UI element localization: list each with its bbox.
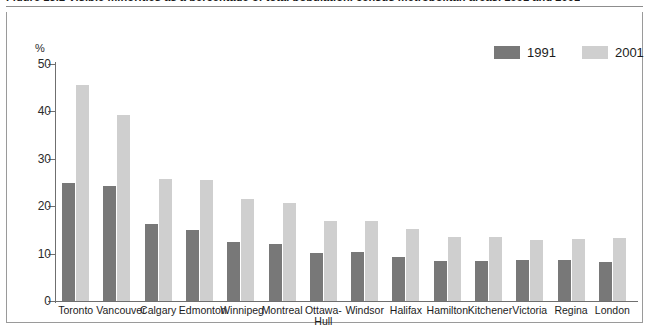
bar: [530, 240, 543, 301]
x-axis-label: Toronto: [55, 305, 96, 316]
bar: [392, 257, 405, 301]
bar: [516, 260, 529, 301]
bar: [613, 238, 626, 301]
x-axis-label: Vancouver: [96, 305, 137, 316]
bar: [351, 252, 364, 301]
figure-title: Figure 13.2 Visible minorities as a perc…: [6, 0, 580, 1]
y-tick-label: 30: [38, 152, 51, 166]
bar: [558, 260, 571, 301]
x-axis-label: Winnipeg: [220, 305, 261, 316]
bar: [434, 261, 447, 301]
legend-label-2001: 2001: [615, 45, 644, 60]
chart-legend: 1991 2001: [494, 45, 644, 60]
legend-label-1991: 1991: [527, 45, 556, 60]
bar-group: [344, 221, 385, 301]
plot-area: 01020304050: [55, 64, 633, 301]
bar: [365, 221, 378, 301]
y-axis-unit-label: %: [35, 42, 45, 54]
bar: [103, 186, 116, 301]
y-tick-label: 0: [44, 294, 51, 308]
bar: [324, 221, 337, 301]
y-tick-label: 10: [38, 247, 51, 261]
bar-group: [427, 237, 468, 301]
bar-group: [385, 229, 426, 301]
x-axis-label: Regina: [550, 305, 591, 316]
bar-group: [55, 85, 96, 301]
y-tick-label: 50: [38, 57, 51, 71]
bar-group: [96, 115, 137, 301]
bar: [159, 179, 172, 301]
bar-group: [138, 179, 179, 301]
bar: [599, 262, 612, 301]
x-axis-label: Calgary: [138, 305, 179, 316]
x-axis-label: Ottawa- Hull: [303, 305, 344, 327]
bar-group: [220, 199, 261, 301]
bar-group: [303, 221, 344, 301]
bar: [76, 85, 89, 301]
x-axis-label: Edmonton: [179, 305, 220, 316]
x-axis-label: London: [592, 305, 633, 316]
bar: [406, 229, 419, 301]
bar: [572, 239, 585, 301]
x-axis-label: Halifax: [385, 305, 426, 316]
legend-swatch-1991: [494, 46, 520, 59]
bar: [283, 203, 296, 301]
legend-item-1991: 1991: [494, 45, 556, 60]
x-axis-label: Windsor: [344, 305, 385, 316]
x-axis-label: Victoria: [509, 305, 550, 316]
x-axis-line: [55, 301, 638, 302]
legend-item-2001: 2001: [582, 45, 644, 60]
bar: [310, 253, 323, 301]
chart-frame: % 1991 2001 01020304050 TorontoVancouver…: [6, 12, 643, 323]
x-axis-label: Kitchener: [468, 305, 509, 316]
title-divider: [6, 6, 643, 7]
y-tick-label: 20: [38, 199, 51, 213]
bar-group: [179, 180, 220, 301]
x-axis-label: Hamilton: [427, 305, 468, 316]
bar: [489, 237, 502, 301]
bar: [475, 261, 488, 301]
bar-group: [468, 237, 509, 301]
bar: [186, 230, 199, 301]
bar: [227, 242, 240, 301]
bar-group: [509, 240, 550, 301]
bar: [117, 115, 130, 301]
y-tick-label: 40: [38, 104, 51, 118]
bar-group: [261, 203, 302, 301]
bar: [269, 244, 282, 301]
bar-group: [592, 238, 633, 301]
legend-swatch-2001: [582, 46, 608, 59]
bar: [200, 180, 213, 301]
bar: [145, 224, 158, 301]
bar: [448, 237, 461, 301]
x-axis-label: Montreal: [261, 305, 302, 316]
bar: [241, 199, 254, 301]
bar-group: [550, 239, 591, 301]
bar: [62, 183, 75, 302]
